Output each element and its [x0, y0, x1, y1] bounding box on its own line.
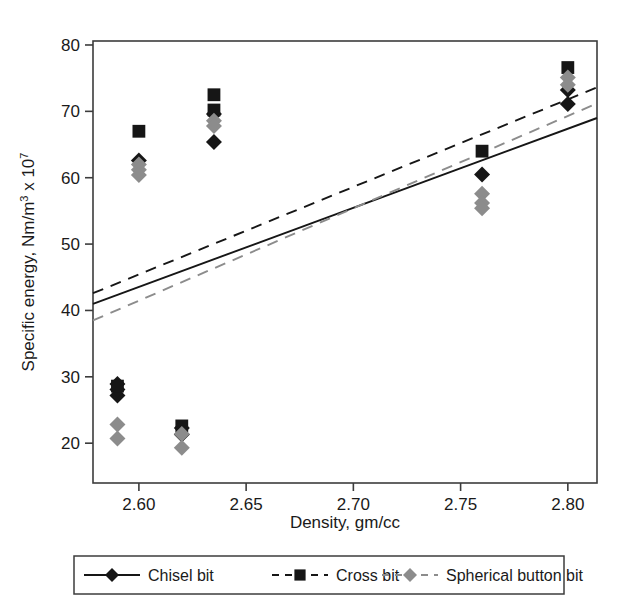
chart-figure: 20304050607080 2.602.652.702.752.80 Spec… [0, 0, 638, 608]
scatter-plot-svg: 20304050607080 2.602.652.702.752.80 Spec… [0, 0, 638, 608]
data-point-cross-bit [476, 145, 489, 158]
x-tick-label: 2.75 [444, 495, 477, 514]
y-tick-label: 70 [61, 102, 80, 121]
y-tick-label: 40 [61, 301, 80, 320]
y-tick-label: 50 [61, 235, 80, 254]
y-axis-title: Specific energy, Nm/m3 x 107 [18, 153, 38, 372]
data-point-cross-bit [132, 125, 145, 138]
legend-marker-cross-bit [294, 569, 305, 580]
y-axis-title-sup-2: 7 [18, 153, 30, 159]
svg-text:Specific energy, Nm/m3 x 107: Specific energy, Nm/m3 x 107 [18, 153, 38, 372]
x-axis-title: Density, gm/cc [290, 513, 401, 532]
y-tick-label: 30 [61, 368, 80, 387]
x-tick-label: 2.70 [337, 495, 370, 514]
legend-label-spherical-button-bit: Spherical button bit [446, 567, 584, 584]
y-axis-title-mid: x 10 [19, 159, 38, 196]
legend-label-chisel-bit: Chisel bit [148, 567, 214, 584]
y-tick-label: 20 [61, 434, 80, 453]
legend-label-cross-bit: Cross bit [336, 567, 400, 584]
x-tick-label: 2.80 [551, 495, 584, 514]
data-point-cross-bit [208, 88, 221, 101]
data-point-cross-bit [111, 380, 124, 393]
y-axis-title-main: Specific energy, Nm/m [19, 202, 38, 372]
x-tick-label: 2.65 [230, 495, 263, 514]
y-tick-label: 80 [61, 36, 80, 55]
x-tick-label: 2.60 [122, 495, 155, 514]
y-tick-label: 60 [61, 169, 80, 188]
